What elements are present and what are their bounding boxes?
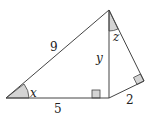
label-right-leg: 2 [126, 93, 134, 107]
right-angle-marker-base [92, 90, 100, 98]
hypotenuse-line [6, 10, 109, 98]
triangle-diagram: 9 5 2 y x z [0, 0, 153, 124]
label-altitude: y [95, 51, 103, 65]
label-base: 5 [54, 102, 62, 116]
right-hyp-line [109, 10, 144, 81]
right-angle-marker-right [134, 74, 145, 85]
label-hypotenuse: 9 [50, 40, 58, 54]
label-angle-z: z [112, 30, 120, 44]
angle-x-marker [6, 84, 29, 98]
label-angle-x: x [30, 86, 37, 100]
